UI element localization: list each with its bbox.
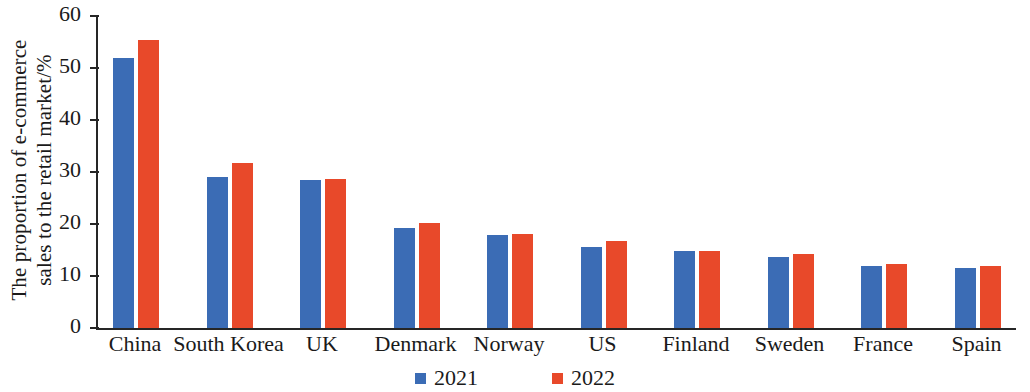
y-tick-label: 40 <box>59 107 81 129</box>
bar-2022-spain <box>980 266 1001 328</box>
bar-2022-us <box>606 241 627 328</box>
bar-2022-uk <box>325 179 346 328</box>
legend-item-2021: 2021 <box>415 367 478 389</box>
bar-group <box>766 16 814 328</box>
y-tick-label: 50 <box>59 55 81 77</box>
y-axis-title: The proportion of e-commerce sales to th… <box>0 0 64 340</box>
bar-2021-spain <box>955 268 976 328</box>
bar-2021-china <box>113 58 134 328</box>
x-axis-line <box>96 328 1016 330</box>
x-axis-label-china: China <box>109 332 162 356</box>
bar-2021-us <box>581 247 602 328</box>
bar-group <box>672 16 720 328</box>
legend-label: 2021 <box>434 367 478 389</box>
legend-label: 2022 <box>571 367 615 389</box>
bar-2022-france <box>886 264 907 328</box>
bar-2022-south-korea <box>232 163 253 328</box>
bar-group <box>859 16 907 328</box>
bar-2022-finland <box>699 251 720 328</box>
bar-2022-china <box>138 40 159 328</box>
bar-groups <box>96 16 1016 328</box>
y-tick-label: 10 <box>59 263 81 285</box>
y-axis-title-line-1: The proportion of e-commerce <box>7 5 32 335</box>
x-axis-label-finland: Finland <box>662 332 729 356</box>
x-axis-label-spain: Spain <box>951 332 1001 356</box>
legend-swatch-icon <box>415 373 426 384</box>
bar-2021-south-korea <box>207 177 228 328</box>
bar-2021-france <box>861 266 882 328</box>
y-tick-label: 60 <box>59 3 81 25</box>
chart-legend: 20212022 <box>0 364 1030 392</box>
y-tick-label: 0 <box>70 315 81 337</box>
legend-swatch-icon <box>552 373 563 384</box>
bar-2021-finland <box>674 251 695 328</box>
bar-group <box>579 16 627 328</box>
bar-group <box>953 16 1001 328</box>
x-axis-label-denmark: Denmark <box>375 332 457 356</box>
bar-group <box>392 16 440 328</box>
bar-chart: The proportion of e-commerce sales to th… <box>0 0 1030 392</box>
x-axis-label-south-korea: South Korea <box>173 332 284 356</box>
bar-group <box>485 16 533 328</box>
bar-group <box>111 16 159 328</box>
bar-2021-sweden <box>768 257 789 328</box>
bar-group <box>298 16 346 328</box>
y-tick-label: 20 <box>59 211 81 233</box>
x-axis-label-us: US <box>588 332 616 356</box>
x-axis-label-sweden: Sweden <box>755 332 825 356</box>
bar-2022-sweden <box>793 254 814 328</box>
bar-2021-denmark <box>394 228 415 328</box>
x-axis-label-norway: Norway <box>474 332 545 356</box>
bar-group <box>205 16 253 328</box>
legend-item-2022: 2022 <box>552 367 615 389</box>
bar-2021-norway <box>487 235 508 328</box>
bar-2022-norway <box>512 234 533 328</box>
y-axis-title-line-2: sales to the retail market/% <box>32 5 57 335</box>
plot-area: 0102030405060 <box>96 16 1016 328</box>
x-axis-label-uk: UK <box>306 332 338 356</box>
bar-2021-uk <box>300 180 321 328</box>
y-tick-label: 30 <box>59 159 81 181</box>
x-axis-labels: ChinaSouth KoreaUKDenmarkNorwayUSFinland… <box>96 332 1016 362</box>
x-axis-label-france: France <box>853 332 913 356</box>
bar-2022-denmark <box>419 223 440 328</box>
